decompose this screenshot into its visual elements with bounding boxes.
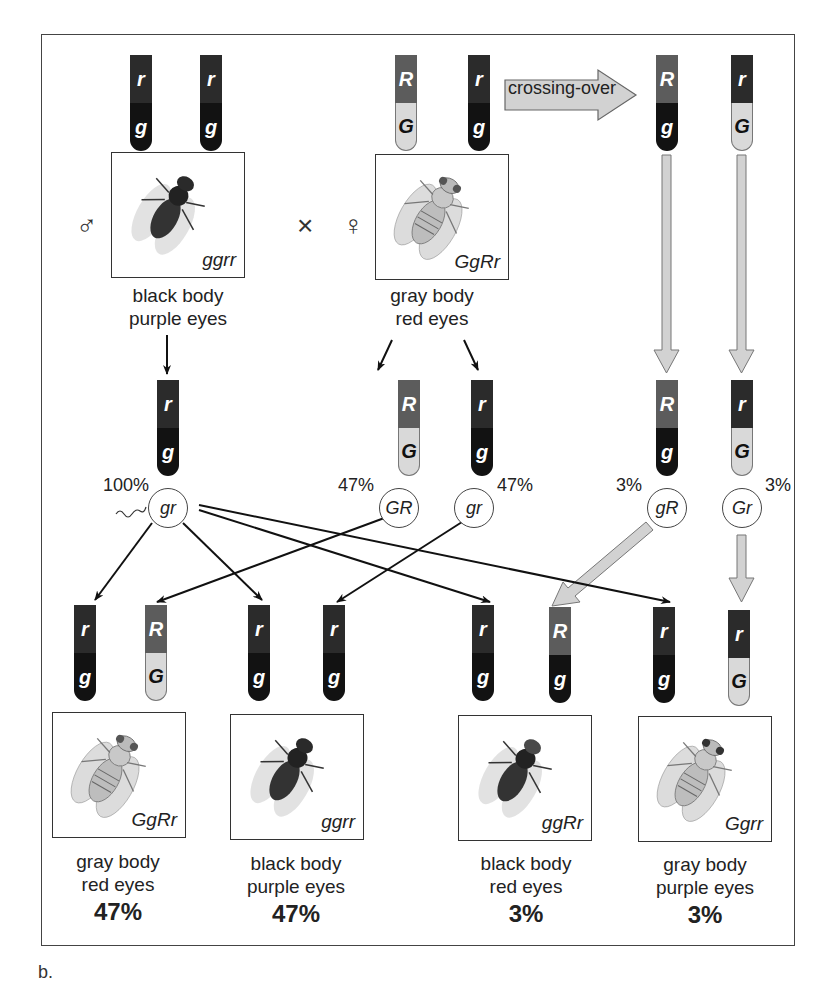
allele-R: R [549, 607, 571, 655]
allele-g: g [653, 655, 675, 703]
allele-G: G [145, 653, 167, 701]
allele-r: r [157, 380, 179, 428]
offspring-4-percent: 3% [615, 901, 795, 929]
offspring-3-chromosome-2: R g [549, 607, 571, 703]
phenotype-line-2: red eyes [342, 307, 522, 330]
offspring-4-fly-image-box: Ggrr [638, 716, 772, 842]
allele-g: g [323, 653, 345, 701]
offspring-3-chromosome-1: r g [472, 605, 494, 701]
cross-symbol: × [297, 210, 313, 242]
phenotype-line-1: gray body [342, 284, 522, 307]
gamete-circle-gR: gR [647, 488, 687, 528]
genotype-label: Ggrr [725, 813, 763, 835]
allele-r: r [74, 605, 96, 653]
allele-r: r [468, 55, 490, 103]
female-chromosome-1: R G [395, 55, 417, 151]
gamete-chromosome-gr: r g [471, 380, 493, 476]
male-chromosome-2: r g [200, 55, 222, 151]
allele-r: r [130, 55, 152, 103]
allele-g: g [472, 653, 494, 701]
offspring-4-chromosome-2: r G [728, 610, 750, 706]
gamete-circle-GR: GR [379, 488, 419, 528]
offspring-2-percent: 47% [206, 900, 386, 928]
genotype-label: GgRr [455, 251, 500, 273]
offspring-3-percent: 3% [436, 900, 616, 928]
gamete-circle-Gr: Gr [722, 488, 762, 528]
allele-r: r [731, 55, 753, 103]
phenotype-line-2: red eyes [28, 873, 208, 896]
allele-G: G [731, 428, 753, 476]
allele-R: R [395, 55, 417, 103]
offspring-2-phenotype: black body purple eyes [206, 852, 386, 898]
phenotype-line-2: red eyes [436, 875, 616, 898]
phenotype-line-1: gray body [615, 853, 795, 876]
allele-G: G [728, 658, 750, 706]
gamete-chromosome-gR: R g [656, 380, 678, 476]
allele-g: g [656, 103, 678, 151]
offspring-2-chromosome-2: r g [323, 605, 345, 701]
recombinant-down-arrow-right [729, 155, 754, 373]
allele-g: g [200, 103, 222, 151]
allele-g: g [656, 428, 678, 476]
allele-r: r [472, 605, 494, 653]
genotype-label: ggrr [202, 249, 236, 271]
gamete-percent: 3% [765, 475, 791, 496]
offspring-1-chromosome-1: r g [74, 605, 96, 701]
male-fly-image-box: ggrr [111, 152, 245, 278]
phenotype-line-1: black body [206, 852, 386, 875]
allele-r: r [728, 610, 750, 658]
recombinant-down-arrow-left [654, 155, 679, 373]
offspring-1-percent: 47% [28, 898, 208, 926]
allele-R: R [656, 380, 678, 428]
female-chromosome-2: r g [468, 55, 490, 151]
sperm-tail-squiggle [116, 507, 146, 517]
linkage-cross-diagram: r g r g R G r g crossing-over R g r G ♂ [0, 0, 825, 988]
phenotype-line-1: black body [88, 284, 268, 307]
offspring-1-chromosome-2: R G [145, 605, 167, 701]
offspring-2-chromosome-1: r g [248, 605, 270, 701]
phenotype-line-2: purple eyes [615, 876, 795, 899]
genotype-label: ggRr [542, 812, 583, 834]
gamete-circle-gr-female: gr [454, 488, 494, 528]
recombinant-chromosome-2: r G [731, 55, 753, 151]
phenotype-line-1: black body [436, 852, 616, 875]
offspring-1-fly-image-box: GgRr [52, 712, 186, 838]
gamete-chromosome-Gr: r G [731, 380, 753, 476]
phenotype-line-1: gray body [28, 850, 208, 873]
male-symbol: ♂ [76, 210, 97, 242]
allele-g: g [549, 655, 571, 703]
allele-G: G [395, 103, 417, 151]
offspring-1-phenotype: gray body red eyes [28, 850, 208, 896]
gamete-percent: 100% [103, 475, 149, 496]
allele-R: R [145, 605, 167, 653]
allele-g: g [157, 428, 179, 476]
female-symbol: ♀ [343, 210, 364, 242]
offspring-4-chromosome-1: r g [653, 607, 675, 703]
gamete-Gr-to-offspring-arrow [729, 535, 754, 602]
allele-g: g [74, 653, 96, 701]
offspring-3-phenotype: black body red eyes [436, 852, 616, 898]
offspring-4-phenotype: gray body purple eyes [615, 853, 795, 899]
male-chromosome-1: r g [130, 55, 152, 151]
allele-g: g [471, 428, 493, 476]
recombinant-chromosome-1: R g [656, 55, 678, 151]
allele-R: R [398, 380, 420, 428]
gamete-circle-gr-male: gr [148, 488, 188, 528]
allele-r: r [471, 380, 493, 428]
allele-R: R [656, 55, 678, 103]
allele-g: g [468, 103, 490, 151]
genotype-label: GgRr [132, 809, 177, 831]
offspring-3-fly-image-box: ggRr [458, 715, 592, 841]
allele-r: r [731, 380, 753, 428]
gamete-percent: 47% [338, 475, 374, 496]
allele-G: G [398, 428, 420, 476]
crossing-over-label: crossing-over [508, 78, 638, 99]
gamete-chromosome-GR: R G [398, 380, 420, 476]
gamete-gR-to-offspring-arrow [552, 522, 653, 606]
allele-r: r [248, 605, 270, 653]
gamete-percent: 3% [616, 475, 642, 496]
allele-g: g [248, 653, 270, 701]
male-phenotype: black body purple eyes [88, 284, 268, 330]
allele-r: r [653, 607, 675, 655]
allele-g: g [130, 103, 152, 151]
